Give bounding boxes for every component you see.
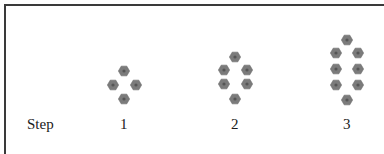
hexagon-center-dot — [334, 51, 337, 54]
step-1-hexagon-group — [107, 66, 141, 104]
hexagon-center-dot — [345, 38, 348, 41]
step-1-label: 1 — [120, 117, 128, 132]
hexagon-center-dot — [134, 83, 137, 86]
hexagon-center-dot — [356, 51, 359, 54]
hexagon-center-dot — [222, 68, 225, 71]
hexagon-center-dot — [222, 82, 225, 85]
hexagon-center-dot — [334, 83, 337, 86]
hexagon-center-dot — [122, 97, 125, 100]
hexagon-center-dot — [245, 68, 248, 71]
step-row-label: Step — [27, 117, 54, 132]
hexagon-center-dot — [345, 98, 348, 101]
hexagon-center-dot — [233, 97, 236, 100]
step-2-hexagon-group — [218, 52, 252, 104]
hexagon-center-dot — [233, 55, 236, 58]
step-2-label: 2 — [231, 117, 239, 132]
step-3-label: 3 — [343, 117, 351, 132]
hexagon-center-dot — [111, 83, 114, 86]
hexagon-center-dot — [122, 69, 125, 72]
hexagon-center-dot — [356, 83, 359, 86]
hexagon-center-dot — [334, 67, 337, 70]
hexagon-center-dot — [245, 82, 248, 85]
hexagon-center-dot — [356, 67, 359, 70]
step-3-hexagon-group — [330, 35, 363, 105]
